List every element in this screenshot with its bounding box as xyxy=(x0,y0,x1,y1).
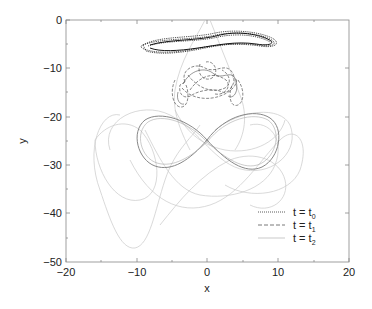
legend: t = t0 t = t1 t = t2 xyxy=(258,206,316,246)
legend-label-t0: t = t0 xyxy=(293,206,316,220)
y-tick-label: −50 xyxy=(43,256,62,268)
y-tick-label: −40 xyxy=(43,207,62,219)
x-tick-label: 0 xyxy=(204,266,210,278)
series-t2-figure-eight xyxy=(137,114,279,170)
chart: −20 −10 0 10 20 0 −10 −20 −30 −40 −50 x … xyxy=(0,0,372,309)
x-tick-label: 20 xyxy=(343,266,355,278)
x-axis-label: x xyxy=(204,282,210,294)
x-tick-label: 10 xyxy=(272,266,284,278)
y-tick-label: −20 xyxy=(43,111,62,123)
y-tick-label: −30 xyxy=(43,159,62,171)
legend-label-t2: t = t2 xyxy=(293,232,316,246)
x-tick-label: −10 xyxy=(128,266,147,278)
y-tick-label: −10 xyxy=(43,62,62,74)
legend-label-t1: t = t1 xyxy=(293,219,316,233)
y-axis-label: y xyxy=(16,138,28,144)
series-t1-cluster xyxy=(172,62,243,107)
y-tick-label: 0 xyxy=(56,14,62,26)
